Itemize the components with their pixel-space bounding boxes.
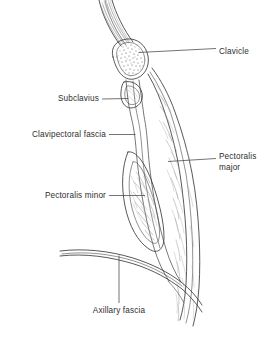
anatomy-diagram-canvas: Clavicle Subclavius Clavipectoral fascia… [0, 0, 277, 337]
label-subclavius: Subclavius [58, 94, 99, 103]
clavipectoral-fascia-band [126, 80, 181, 282]
label-pectoralis-minor: Pectoralis minor [45, 191, 106, 200]
subclavius-fibers [127, 88, 138, 102]
subclavius-muscle [121, 81, 143, 108]
leader-clavicle [139, 49, 217, 53]
clavicle-bone [112, 39, 148, 79]
leader-subclavius [102, 99, 129, 100]
labels-group: Clavicle Subclavius Clavipectoral fascia… [32, 47, 256, 315]
label-clavipectoral-fascia: Clavipectoral fascia [32, 130, 106, 139]
label-pectoralis-major-line2: major [219, 163, 240, 172]
label-clavicle: Clavicle [219, 47, 249, 56]
pectoralis-major-fibers [157, 92, 180, 321]
label-axillary-fascia: Axillary fascia [93, 306, 146, 315]
label-pectoralis-major-line1: Pectoralis [219, 152, 256, 161]
anatomy-figure: Clavicle Subclavius Clavipectoral fascia… [0, 0, 277, 337]
